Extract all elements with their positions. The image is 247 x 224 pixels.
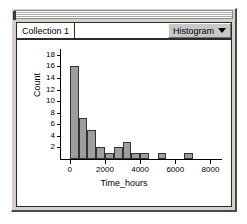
y-axis-tick-label: 10 bbox=[17, 97, 55, 105]
histogram-bar[interactable] bbox=[87, 130, 96, 159]
histogram-bar[interactable] bbox=[184, 153, 193, 159]
y-axis-tick bbox=[57, 101, 61, 102]
histogram-bar[interactable] bbox=[96, 147, 105, 159]
window-grab-bar[interactable] bbox=[14, 10, 233, 19]
histogram-bar[interactable] bbox=[105, 153, 114, 159]
histogram-plot-panel[interactable]: Count Time_hours 24681012141618020004000… bbox=[16, 39, 232, 207]
plot-type-dropdown[interactable]: Histogram bbox=[168, 23, 231, 38]
y-axis-tick bbox=[57, 124, 61, 125]
tab-strip: Collection 1 Histogram bbox=[16, 22, 232, 39]
collection-tab-label: Collection 1 bbox=[22, 26, 69, 36]
histogram-bar[interactable] bbox=[114, 147, 123, 159]
x-axis-tick bbox=[105, 160, 106, 164]
y-axis-tick bbox=[57, 113, 61, 114]
application-window: Collection 1 Histogram Count Time_hours … bbox=[11, 8, 237, 212]
chevron-down-icon bbox=[218, 28, 226, 33]
y-axis-tick-label: 14 bbox=[17, 74, 55, 82]
x-axis-tick bbox=[70, 160, 71, 164]
y-axis-tick bbox=[57, 55, 61, 56]
y-axis-tick-label: 16 bbox=[17, 62, 55, 70]
x-axis-title: Time_hours bbox=[17, 178, 231, 188]
x-axis-tick-label: 6000 bbox=[155, 165, 195, 174]
histogram-bar[interactable] bbox=[123, 142, 132, 159]
y-axis-tick-label: 2 bbox=[17, 143, 55, 151]
histogram-bar[interactable] bbox=[131, 153, 140, 159]
y-axis-tick bbox=[57, 136, 61, 137]
y-axis-tick-label: 8 bbox=[17, 109, 55, 117]
y-axis-tick bbox=[57, 78, 61, 79]
plot-type-label: Histogram bbox=[173, 26, 214, 36]
y-axis-tick-label: 18 bbox=[17, 51, 55, 59]
x-axis-tick-label: 4000 bbox=[120, 165, 160, 174]
x-axis-tick-label: 2000 bbox=[85, 165, 125, 174]
histogram-bar[interactable] bbox=[79, 118, 88, 159]
plot-data-area bbox=[61, 49, 221, 159]
histogram-bar[interactable] bbox=[70, 66, 79, 159]
x-axis-tick bbox=[175, 160, 176, 164]
tab-collection-1[interactable]: Collection 1 bbox=[16, 22, 75, 39]
y-axis-tick-label: 6 bbox=[17, 120, 55, 128]
y-axis-tick bbox=[57, 90, 61, 91]
x-axis-tick-label: 8000 bbox=[190, 165, 230, 174]
y-axis-tick bbox=[57, 66, 61, 67]
window-resize-grip[interactable] bbox=[13, 11, 16, 20]
x-axis-tick bbox=[210, 160, 211, 164]
x-axis-tick bbox=[140, 160, 141, 164]
y-axis-tick bbox=[57, 147, 61, 148]
histogram-bar[interactable] bbox=[158, 153, 167, 159]
histogram-bar[interactable] bbox=[140, 153, 149, 159]
x-axis-tick-label: 0 bbox=[50, 165, 90, 174]
y-axis-tick-label: 12 bbox=[17, 86, 55, 94]
y-axis-tick-label: 4 bbox=[17, 132, 55, 140]
